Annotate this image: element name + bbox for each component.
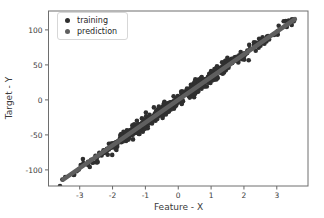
series-prediction <box>63 19 295 179</box>
legend-label: prediction <box>77 27 117 36</box>
x-tick-label: -2 <box>109 191 117 200</box>
legend-label: training <box>77 16 108 25</box>
plot-canvas: -3-2-10123-100-50050100 <box>0 0 324 218</box>
x-tick-label: 2 <box>242 191 247 200</box>
x-tick-label: 1 <box>209 191 214 200</box>
plot-area <box>58 17 297 188</box>
legend: training prediction <box>57 12 128 40</box>
y-tick-label: -50 <box>30 131 42 140</box>
prediction-marker-icon <box>65 29 70 34</box>
y-tick-label: 0 <box>38 96 43 105</box>
y-tick-label: -100 <box>25 166 42 175</box>
x-tick-label: -3 <box>76 191 84 200</box>
x-tick-label: -1 <box>142 191 150 200</box>
x-axis-label: Feature - X <box>49 202 308 212</box>
training-marker-icon <box>65 18 70 23</box>
x-tick-label: 0 <box>176 191 181 200</box>
y-tick-label: 100 <box>28 26 43 35</box>
y-tick-label: 50 <box>33 61 43 70</box>
legend-item-prediction: prediction <box>65 27 117 36</box>
x-tick-label: 3 <box>274 191 279 200</box>
scatter-plot-figure: -3-2-10123-100-50050100 Target - Y Featu… <box>0 0 324 218</box>
y-axis-label: Target - Y <box>4 53 14 143</box>
legend-item-training: training <box>65 16 117 25</box>
